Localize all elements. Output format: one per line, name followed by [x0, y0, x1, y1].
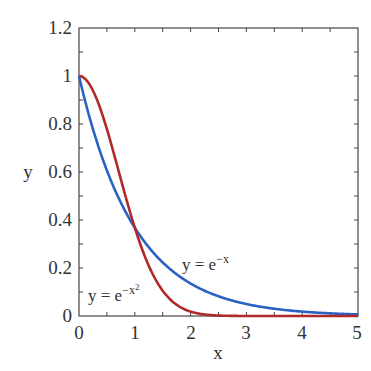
ytick-0.2: 0.2: [48, 257, 72, 278]
annotation-gauss-sup: −x: [122, 283, 135, 297]
ytick-1: 1: [63, 65, 73, 86]
ytick-0.4: 0.4: [48, 209, 72, 230]
chart-root: 0 0.2 0.4 0.6 0.8 1 1.2 0 1 2 3 4 5 x y …: [0, 0, 371, 371]
y-axis-label: y: [23, 161, 33, 182]
annotation-exp-neg-x-squared: y = e−x2: [88, 282, 139, 305]
ytick-0.6: 0.6: [48, 161, 72, 182]
x-axis-label: x: [213, 342, 223, 363]
curve-exp-neg-x-squared: [79, 76, 358, 316]
ytick-0: 0: [63, 305, 73, 326]
axis-ticks: [79, 28, 358, 316]
xtick-3: 3: [241, 322, 251, 343]
xtick-1: 1: [130, 322, 140, 343]
annotation-exp-sup: −x: [216, 252, 229, 266]
annotation-exp-neg-x: y = e−x: [182, 252, 229, 274]
xtick-2: 2: [186, 322, 196, 343]
ytick-1.2: 1.2: [48, 17, 72, 38]
xtick-4: 4: [297, 322, 307, 343]
ytick-0.8: 0.8: [48, 113, 72, 134]
annotation-gauss-main: y = e: [88, 286, 122, 305]
xtick-5: 5: [352, 322, 362, 343]
annotation-exp-main: y = e: [182, 255, 216, 274]
xtick-0: 0: [74, 322, 84, 343]
annotation-gauss-sup2: 2: [135, 282, 140, 292]
plot-frame: [79, 28, 358, 316]
curve-exp-neg-x: [79, 76, 358, 314]
